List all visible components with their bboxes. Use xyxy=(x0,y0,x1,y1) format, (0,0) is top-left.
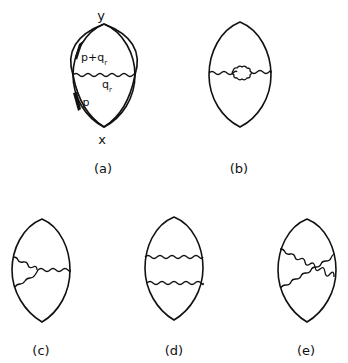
momentum-upper-text: p+q xyxy=(81,51,104,64)
momentum-label-upper: p+qr xyxy=(81,51,107,66)
photon-line-lower-fork xyxy=(15,270,38,287)
diagram-a xyxy=(71,24,138,127)
caption-e: (e) xyxy=(297,343,315,358)
diagram-b xyxy=(209,22,271,127)
vertex-label-x: x xyxy=(98,132,106,147)
vertex-label-y: y xyxy=(97,8,105,23)
photon-line-right xyxy=(38,269,70,272)
momentum-photon-text: q xyxy=(102,78,109,91)
fermion-loop xyxy=(278,219,336,322)
photon-line-right xyxy=(251,71,271,74)
caption-c: (c) xyxy=(32,343,49,358)
self-energy-loop xyxy=(232,66,251,80)
photon-line-crossed-2 xyxy=(281,254,334,288)
momentum-label-photon: qr xyxy=(102,78,112,93)
caption-a: (a) xyxy=(94,161,112,176)
photon-line-upper-fork xyxy=(13,257,37,270)
momentum-label-lower: p xyxy=(83,96,90,109)
feynman-diagrams: .ln{fill:none;stroke:#111;stroke-width:1… xyxy=(0,0,348,363)
caption-b: (b) xyxy=(230,161,248,176)
diagram-e xyxy=(278,219,336,322)
momentum-upper-sub: r xyxy=(104,59,107,67)
momentum-photon-sub: r xyxy=(109,86,112,94)
diagram-d xyxy=(145,217,203,320)
photon-line xyxy=(73,74,135,77)
fermion-loop xyxy=(145,217,203,320)
photon-line-upper xyxy=(145,256,203,259)
photon-line-lower xyxy=(147,282,203,285)
caption-d: (d) xyxy=(165,343,183,358)
diagram-c xyxy=(12,219,70,322)
